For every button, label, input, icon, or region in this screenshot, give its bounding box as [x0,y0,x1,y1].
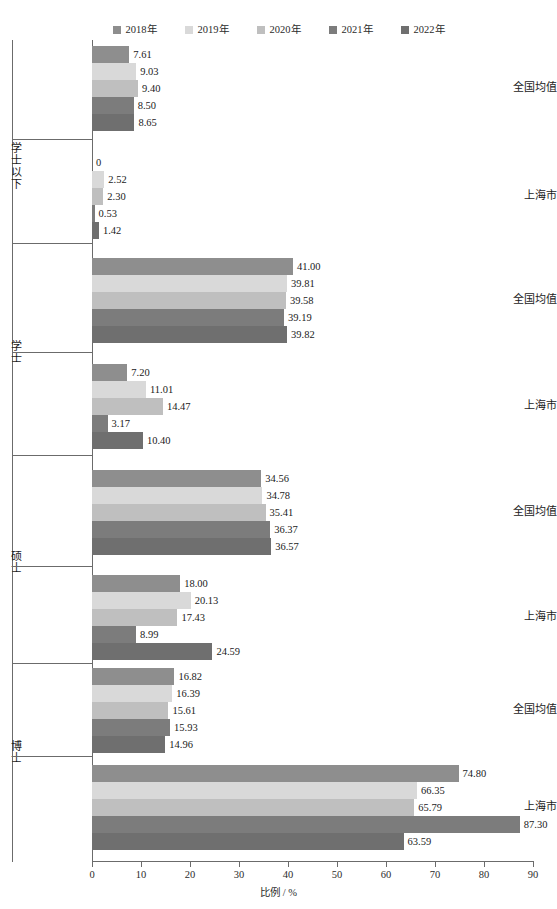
bar-row: 7.20 [92,364,533,381]
bar-2019年-博士-全国均值 [92,685,172,702]
x-tick [533,862,534,867]
bar-row: 16.39 [92,685,533,702]
bar-value-label: 36.57 [275,539,299,554]
bar-row: 39.82 [92,326,533,343]
legend-item-2022: 2022年 [401,25,445,36]
bar-row: 66.35 [92,782,533,799]
bar-2019年-学士以下-上海市 [92,171,104,188]
bar-2022年-学士以下-全国均值 [92,114,134,131]
bar-2022年-博士-上海市 [92,833,404,850]
legend-item-2019: 2019年 [185,25,229,36]
bar-value-label: 66.35 [421,783,445,798]
bar-2019年-硕士-上海市 [92,592,191,609]
bar-value-label: 10.40 [147,433,171,448]
bar-row: 74.80 [92,765,533,782]
bar-2020年-硕士-全国均值 [92,504,266,521]
bar-value-label: 11.01 [150,382,173,397]
bar-2018年-学士-全国均值 [92,258,293,275]
bar-row: 14.47 [92,398,533,415]
level-label-2: 硕士 [0,540,24,584]
bar-row: 9.03 [92,63,533,80]
x-axis-title: 比例 / % [0,884,557,899]
bar-row: 34.78 [92,487,533,504]
bar-value-label: 39.82 [291,327,315,342]
bar-2018年-学士-上海市 [92,364,127,381]
bar-row: 39.19 [92,309,533,326]
bar-2021年-学士以下-上海市 [92,205,95,222]
bar-value-label: 0.53 [99,206,117,221]
bar-2020年-学士以下-全国均值 [92,80,138,97]
bar-value-label: 1.42 [103,223,121,238]
bar-2018年-硕士-上海市 [92,575,180,592]
bar-value-label: 8.65 [138,115,156,130]
bar-value-label: 17.43 [181,610,205,625]
bar-2021年-博士-全国均值 [92,719,170,736]
level-separator-6 [12,756,92,757]
bar-value-label: 39.58 [290,293,314,308]
x-tick-label: 0 [89,869,94,880]
x-tick-label: 60 [381,869,392,880]
legend-swatch-2019 [185,26,193,34]
bar-value-label: 41.00 [297,259,321,274]
bar-value-label: 35.41 [270,505,294,520]
bar-row: 15.61 [92,702,533,719]
bar-value-label: 63.59 [408,834,432,849]
x-tick-label: 80 [479,869,490,880]
chart-legend: 2018年 2019年 2020年 2021年 2022年 [0,22,557,38]
bar-row: 63.59 [92,833,533,850]
level-label-0: 学士以下 [0,136,24,196]
bar-row: 3.17 [92,415,533,432]
bar-2021年-学士-上海市 [92,415,108,432]
level-separator-1 [12,243,92,244]
bar-value-label: 20.13 [195,593,219,608]
bar-row: 8.99 [92,626,533,643]
level-label-3: 博士 [0,730,24,774]
bar-2020年-学士-上海市 [92,398,163,415]
bar-2019年-博士-上海市 [92,782,417,799]
bar-2022年-硕士-上海市 [92,643,212,660]
x-tick [190,862,191,867]
legend-item-2018: 2018年 [113,25,157,36]
bar-2021年-学士以下-全国均值 [92,97,134,114]
bar-row: 36.57 [92,538,533,555]
bar-value-label: 2.30 [107,189,125,204]
bar-2020年-博士-上海市 [92,799,414,816]
bar-value-label: 74.80 [463,766,487,781]
bar-2019年-学士-全国均值 [92,275,287,292]
bar-2022年-学士-上海市 [92,432,143,449]
legend-item-2021: 2021年 [329,25,373,36]
legend-label-2018: 2018年 [126,25,157,36]
x-tick-label: 50 [332,869,343,880]
bar-row: 35.41 [92,504,533,521]
legend-label-2020: 2020年 [270,25,301,36]
bar-row: 2.52 [92,171,533,188]
bar-value-label: 39.19 [288,310,312,325]
bar-2019年-硕士-全国均值 [92,487,262,504]
top-page-sliver [0,0,557,10]
bar-2021年-博士-上海市 [92,816,520,833]
bar-value-label: 34.78 [266,488,290,503]
bar-row: 24.59 [92,643,533,660]
bar-value-label: 7.20 [131,365,149,380]
bar-row: 87.30 [92,816,533,833]
bar-2018年-硕士-全国均值 [92,470,261,487]
bar-row: 11.01 [92,381,533,398]
level-separator-2 [12,352,92,353]
x-tick-label: 70 [430,869,441,880]
bar-row: 7.61 [92,46,533,63]
bar-2020年-硕士-上海市 [92,609,177,626]
bar-row: 17.43 [92,609,533,626]
bar-value-label: 2.52 [108,172,126,187]
bar-row: 8.65 [92,114,533,131]
bar-2018年-博士-全国均值 [92,668,174,685]
bar-value-label: 9.40 [142,81,160,96]
bars-layer: 7.619.039.408.508.6502.522.300.531.4241.… [92,40,533,862]
bar-2021年-硕士-上海市 [92,626,136,643]
bar-row: 2.30 [92,188,533,205]
bar-row: 41.00 [92,258,533,275]
bar-value-label: 87.30 [524,817,548,832]
bar-2020年-博士-全国均值 [92,702,168,719]
bar-row: 15.93 [92,719,533,736]
bar-value-label: 18.00 [184,576,208,591]
legend-label-2021: 2021年 [342,25,373,36]
